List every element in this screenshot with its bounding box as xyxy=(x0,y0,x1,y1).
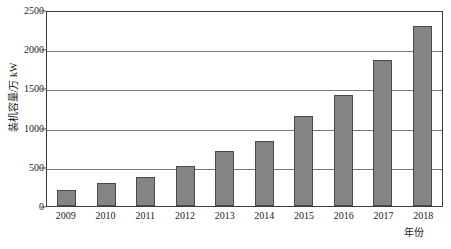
bar-chart: 装机容量/万 kW 2500 2000 1500 1000 500 0 2009… xyxy=(0,0,451,249)
bar-2015 xyxy=(294,116,313,206)
x-tick-label-2012: 2012 xyxy=(165,210,205,222)
x-tick-label-2014: 2014 xyxy=(245,210,285,222)
x-tick-label-2018: 2018 xyxy=(403,210,443,222)
x-tick-label-2009: 2009 xyxy=(46,210,86,222)
x-axis-tick-labels: 2009201020112012201320142015201620172018 xyxy=(46,210,443,224)
bar-2010 xyxy=(97,183,116,206)
bar-2017 xyxy=(373,60,392,206)
x-tick-label-2015: 2015 xyxy=(284,210,324,222)
x-tick-label-2016: 2016 xyxy=(324,210,364,222)
x-tick-label-2013: 2013 xyxy=(205,210,245,222)
y-tick-label-2500: 2500 xyxy=(14,6,44,16)
bar-2013 xyxy=(215,151,234,206)
bar-2018 xyxy=(413,26,432,206)
bar-2009 xyxy=(57,190,76,206)
x-axis-title: 年份 xyxy=(404,227,424,239)
bar-2011 xyxy=(136,177,155,206)
x-tick-label-2010: 2010 xyxy=(86,210,126,222)
x-tick-label-2017: 2017 xyxy=(364,210,404,222)
y-tick-label-0: 0 xyxy=(14,202,44,212)
bar-2012 xyxy=(176,166,195,206)
y-tick-label-1000: 1000 xyxy=(14,124,44,134)
x-tick-label-2011: 2011 xyxy=(125,210,165,222)
y-tick-label-500: 500 xyxy=(14,163,44,173)
bar-2014 xyxy=(255,141,274,206)
bars-layer xyxy=(47,12,442,206)
y-tick-label-2000: 2000 xyxy=(14,45,44,55)
y-tick-label-1500: 1500 xyxy=(14,84,44,94)
bar-2016 xyxy=(334,95,353,206)
plot-area xyxy=(46,11,443,207)
